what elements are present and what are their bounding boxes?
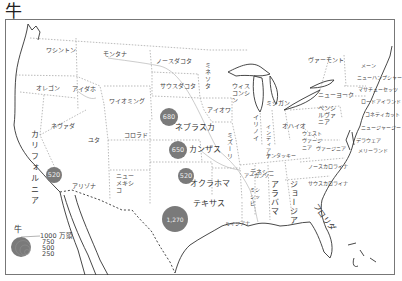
state-label-virginia: ヴァージニア: [316, 145, 346, 152]
state-label-oregon: オレゴン: [36, 84, 60, 91]
state-label-south-carolina: サウスカロライナ: [308, 180, 348, 187]
state-label-new-hampshire: ニューハンプシャー: [357, 74, 402, 81]
state-label-california: カリフォルニア: [30, 130, 37, 207]
state-label-south-dakota: サウスダコタ: [160, 82, 196, 89]
state-label-maryland: メリーランド: [358, 147, 388, 154]
state-label-pennsylvania: ペンシルヴァニア: [318, 104, 338, 125]
state-label-colorado: コロラド: [124, 131, 148, 138]
state-label-missouri: ミズーリ: [226, 132, 233, 160]
bubble-nebraska: 680: [160, 108, 178, 126]
state-label-kentucky: ケンタッキー: [266, 152, 296, 159]
state-label-rhode-island: ロードアイランド: [361, 98, 401, 105]
state-label-georgia: ジョージア: [289, 180, 296, 225]
state-label-new-york: ニューヨーク: [318, 91, 354, 98]
state-label-kansas: カンザス: [189, 146, 221, 153]
state-label-texas: テキサス: [193, 200, 225, 207]
bubble-texas: 1,270: [162, 206, 188, 232]
state-label-utah: ユタ: [88, 136, 100, 143]
bubble-california: 520: [46, 167, 62, 183]
state-label-vermont: ヴァーモント: [308, 56, 344, 63]
state-label-louisiana: ルイジアナ: [225, 220, 250, 227]
state-label-tennessee: テネシー: [250, 168, 274, 175]
legend-label-250: 250: [42, 251, 54, 257]
state-label-montana: モンタナ: [103, 50, 127, 57]
state-label-mississippi: ミシシッピ: [250, 186, 262, 207]
state-label-wisconsin: ウィスコンシン: [232, 82, 252, 103]
state-label-iowa: アイオワ: [207, 106, 231, 113]
state-label-north-carolina: ノースカロライナ: [308, 163, 348, 170]
state-label-ohio: オハイオ: [282, 122, 306, 129]
bubble-oklahoma: 520: [178, 168, 194, 184]
state-label-new-mexico: ニューメキシコ: [116, 172, 136, 193]
state-label-alabama: アラバマ: [270, 180, 277, 216]
state-label-north-dakota: ノースダコタ: [156, 57, 192, 64]
state-label-oklahoma: オクラホマ: [190, 180, 230, 187]
state-label-idaho: アイダホ: [72, 85, 96, 92]
state-label-wyoming: ワイオミング: [109, 97, 145, 104]
state-label-delaware: デラウェア: [356, 137, 381, 144]
bubble-kansas: 650: [169, 141, 187, 159]
state-label-washington: ワシントン: [46, 46, 76, 53]
state-label-connecticut: コネティカット: [365, 111, 400, 118]
state-label-maine: メーン: [361, 62, 376, 69]
state-label-michigan: ミシガン: [266, 99, 290, 106]
state-label-nevada: ネヴァダ: [51, 122, 75, 129]
state-label-illinois: イリノイ: [252, 114, 259, 142]
state-label-nebraska: ネブラスカ: [175, 124, 215, 131]
state-label-massachusetts: マサチューセッツ: [358, 86, 398, 93]
state-label-arizona: アリゾナ: [72, 182, 96, 189]
state-label-minnesota: ミネソタ: [204, 62, 211, 90]
legend-title: 牛: [14, 223, 22, 234]
state-label-new-jersey: ニュージャージー: [361, 124, 401, 131]
